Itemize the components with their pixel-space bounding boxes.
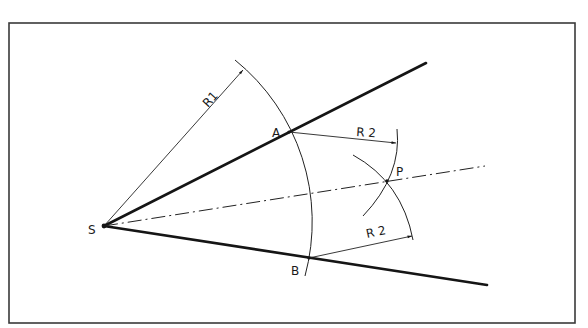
construction-diagram: S A B P R1 R 2 R 2 bbox=[0, 0, 588, 328]
point-p-dot bbox=[385, 179, 389, 183]
r1-arc bbox=[235, 60, 312, 276]
upper-leg-line bbox=[104, 63, 426, 226]
r1-dimension-line bbox=[104, 70, 243, 226]
label-p: P bbox=[396, 165, 403, 179]
r2-upper-dimension-line bbox=[289, 132, 396, 143]
label-r2-upper: R 2 bbox=[356, 125, 377, 140]
vertex-s-dot bbox=[102, 224, 107, 229]
drawing-frame bbox=[9, 23, 575, 323]
point-b-dot bbox=[307, 256, 310, 259]
r2-arc-from-a bbox=[363, 129, 398, 216]
label-r1: R1 bbox=[200, 89, 221, 110]
label-s: S bbox=[88, 223, 96, 237]
r2-lower-dimension-line bbox=[309, 236, 412, 258]
point-a-dot bbox=[287, 130, 290, 133]
label-r2-lower: R 2 bbox=[365, 223, 387, 241]
label-a: A bbox=[272, 126, 281, 140]
label-b: B bbox=[291, 264, 299, 278]
